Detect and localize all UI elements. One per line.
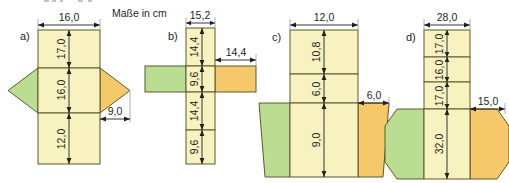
cropped-heading-remnant (44, 0, 92, 2)
part-b: b) 15,2 14,4 9,6 14,4 9,6 (145, 9, 256, 164)
part-c-width-text: 12,0 (314, 11, 335, 23)
part-a-flap-text: 9,0 (108, 105, 123, 117)
part-d-width-dimension: 28,0 (424, 11, 470, 30)
part-a-width-dimension: 16,0 (38, 11, 100, 30)
part-d-seg3-text: 17,0 (433, 86, 445, 107)
part-a-vertical-dimensions: 17,0 16,0 12,0 (55, 30, 71, 164)
part-c-seg3-text: 9,0 (310, 133, 322, 148)
part-a: a) 16,0 17,0 16,0 12,0 (8, 11, 130, 164)
part-b-flap-dimension: 14,4 (215, 46, 256, 66)
part-d-seg2-text: 16,0 (433, 60, 445, 81)
part-d: d) 28,0 17,0 16,0 17,0 32,0 (385, 11, 509, 179)
part-b-width-dimension: 15,2 (186, 9, 215, 28)
part-c-label: c) (272, 31, 281, 43)
part-c-left-flap (259, 103, 290, 177)
part-d-label: d) (406, 31, 416, 43)
part-b-left-flap (145, 66, 186, 92)
part-b-seg2-text: 9,6 (188, 72, 200, 87)
part-b-seg3-text: 14,4 (188, 101, 200, 122)
part-d-left-flap (385, 109, 424, 179)
part-d-width-text: 28,0 (437, 11, 458, 23)
part-b-seg4-text: 9,6 (188, 140, 200, 155)
part-d-seg4-text: 32,0 (433, 134, 445, 155)
nets-figure: Maße in cm a) 16,0 17,0 (0, 0, 509, 183)
part-d-seg1-text: 17,0 (433, 34, 445, 55)
part-c-width-dimension: 12,0 (290, 11, 358, 30)
part-b-right-flap (215, 66, 256, 92)
part-c-right-flap (358, 103, 389, 177)
part-b-flap-text: 14,4 (226, 46, 247, 58)
part-c-seg1-text: 10,8 (310, 42, 322, 63)
part-a-seg3-text: 12,0 (55, 129, 67, 150)
part-c-seg2-text: 6,0 (310, 82, 322, 97)
part-d-right-flap (470, 109, 509, 179)
part-a-seg1-text: 17,0 (55, 39, 67, 60)
part-b-width-text: 15,2 (190, 9, 211, 21)
part-c: c) 12,0 10,8 6,0 9,0 (259, 11, 389, 177)
part-a-width-text: 16,0 (59, 11, 80, 23)
part-d-flap-text: 15,0 (478, 95, 499, 107)
part-c-flap-text: 6,0 (367, 89, 382, 101)
unit-note: Maße in cm (112, 7, 167, 19)
figure-sheet: Maße in cm a) 16,0 17,0 (0, 0, 509, 183)
part-a-left-flap (8, 68, 38, 113)
part-a-label: a) (20, 30, 30, 42)
part-b-label: b) (168, 30, 178, 42)
part-a-seg2-text: 16,0 (55, 80, 67, 101)
part-b-seg1-text: 14,4 (188, 37, 200, 58)
